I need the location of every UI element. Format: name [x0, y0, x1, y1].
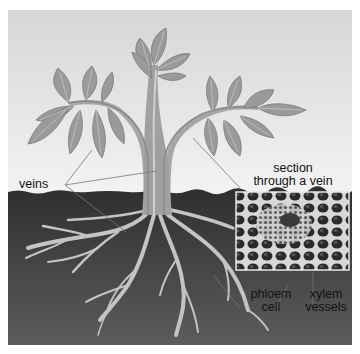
plant-diagram: veins section through a vein phloem cell…: [8, 10, 352, 345]
label-veins: veins: [19, 178, 48, 191]
label-section-through-vein: section through a vein: [238, 162, 348, 188]
label-phloem-cell: phloem cell: [246, 288, 296, 314]
vein-cross-section-inset: [236, 192, 349, 270]
label-xylem-vessels: xylem vessels: [302, 288, 350, 314]
label-section-line2: through a vein: [238, 175, 348, 188]
label-phloem-line2: cell: [246, 301, 296, 314]
label-xylem-line2: vessels: [302, 301, 350, 314]
